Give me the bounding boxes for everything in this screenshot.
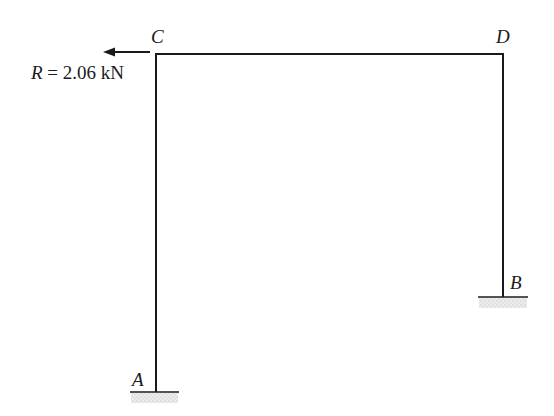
load-arrow-icon [103, 48, 150, 57]
load-label: R = 2.06 kN [30, 62, 124, 83]
frame-diagram: C D B A R = 2.06 kN [0, 0, 554, 416]
load-symbol: R [30, 62, 43, 83]
node-label-c: C [151, 26, 164, 47]
fixed-support-b-icon [478, 297, 528, 308]
fixed-support-a-icon [130, 392, 179, 403]
node-label-a: A [130, 369, 144, 390]
load-value: = 2.06 kN [43, 62, 125, 83]
node-label-b: B [510, 272, 522, 293]
node-label-d: D [495, 26, 510, 47]
